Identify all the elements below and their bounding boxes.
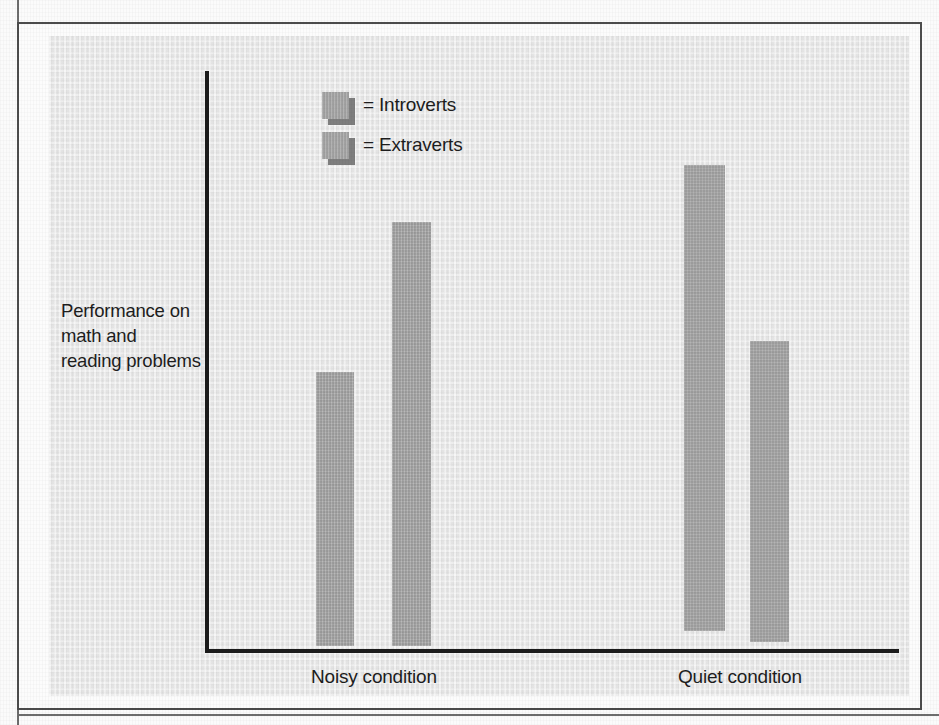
bar-quiet-introverts — [684, 165, 725, 631]
x-tick-label-noisy: Noisy condition — [311, 666, 437, 688]
x-axis-line — [205, 649, 899, 653]
y-axis-label: Performance on math and reading problems — [61, 298, 201, 373]
legend-swatch-introverts — [322, 92, 349, 119]
legend-item-extraverts: = Extraverts — [322, 132, 463, 172]
bar-quiet-extraverts — [750, 341, 789, 642]
x-tick-label-quiet: Quiet condition — [678, 666, 802, 688]
legend-label-introverts: = Introverts — [363, 92, 456, 118]
legend-item-introverts: = Introverts — [322, 92, 463, 132]
scanned-page: = Introverts = Extraverts — [0, 0, 939, 725]
bar-noisy-extraverts — [392, 222, 431, 646]
legend-swatch-extraverts — [322, 132, 349, 159]
page-bottom-rule — [17, 714, 939, 716]
figure-frame: = Introverts = Extraverts — [17, 22, 922, 710]
chart-legend: = Introverts = Extraverts — [322, 92, 463, 172]
bar-chart: = Introverts = Extraverts — [49, 36, 909, 696]
y-axis-line — [205, 71, 209, 653]
legend-label-extraverts: = Extraverts — [363, 132, 463, 158]
bar-noisy-introverts — [316, 372, 354, 646]
